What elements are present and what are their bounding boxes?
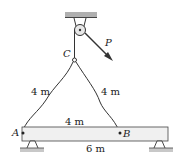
ceiling	[65, 12, 97, 17]
support-right	[149, 141, 173, 152]
point-A	[22, 132, 25, 135]
cable-AC-length: 4 m	[31, 86, 51, 97]
point-C-label: C	[63, 48, 71, 59]
force-P-label: P	[104, 37, 112, 48]
cable-BC-length: 4 m	[101, 86, 121, 97]
point-A-label: A	[11, 127, 19, 138]
point-B	[119, 132, 122, 135]
statics-diagram: P C 4 m 4 m 4 m A B 6 m	[0, 0, 180, 159]
beam	[22, 127, 168, 141]
ring-C	[73, 58, 77, 62]
point-B-label: B	[122, 128, 130, 139]
support-left	[20, 141, 44, 152]
beam-length: 6 m	[86, 143, 106, 154]
AB-length: 4 m	[65, 116, 85, 127]
